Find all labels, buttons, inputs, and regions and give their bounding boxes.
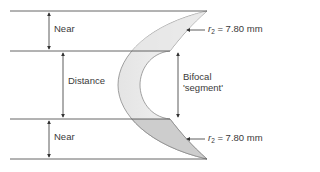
radius-value: = 7.80 mm: [215, 23, 263, 34]
radius-value: = 7.80 mm: [215, 132, 263, 143]
label-near-bottom: Near: [54, 132, 75, 143]
label-near-top: Near: [54, 24, 75, 35]
label-radius-bottom: r2 = 7.80 mm: [208, 133, 263, 144]
label-bifocal-line2: 'segment': [183, 83, 223, 94]
label-radius-top: r2 = 7.80 mm: [208, 24, 263, 35]
label-distance: Distance: [68, 76, 105, 87]
label-bifocal-segment: Bifocal 'segment': [183, 72, 223, 94]
